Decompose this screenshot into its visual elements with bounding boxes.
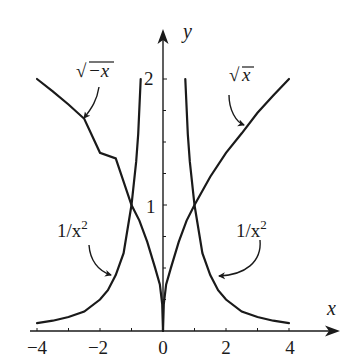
curve-inv-sq-left (37, 79, 141, 323)
label-inv-sq-left: 1/x2 (57, 217, 88, 241)
label-sqrt-neg-x: √ −x (76, 60, 114, 81)
x-tick-labels: −4 −2 0 2 4 (27, 337, 295, 358)
label-inv-sq-right: 1/x2 (236, 217, 267, 241)
x-tick-label: −4 (27, 337, 48, 358)
function-plot: −4 −2 0 2 4 2 1 x y √ −x √ x 1/x2 1/x2 (0, 0, 361, 358)
x-tick-label: 4 (285, 337, 295, 358)
svg-text:−x: −x (88, 60, 110, 81)
svg-text:1/x2: 1/x2 (236, 217, 267, 241)
y-axis-label: y (181, 20, 192, 43)
y-tick-label-1: 1 (146, 196, 156, 217)
svg-text:x: x (241, 64, 251, 85)
curve-sqrt-x (163, 79, 289, 331)
svg-text:1/x2: 1/x2 (57, 217, 88, 241)
label-sqrt-x: √ x (229, 64, 254, 85)
x-axis-label: x (326, 297, 336, 319)
svg-text:√: √ (76, 60, 87, 81)
arrow-to-inv-sq-left (89, 245, 111, 275)
svg-text:√: √ (229, 64, 240, 85)
arrow-to-sqrt-x (229, 95, 244, 125)
y-tick-label-2: 2 (144, 68, 154, 89)
curve-sqrt-neg-x (37, 79, 163, 331)
curve-inv-sq-right (185, 79, 289, 323)
arrow-to-sqrt-neg-x (84, 87, 99, 118)
x-tick-label: 2 (221, 337, 231, 358)
x-tick-label: 0 (158, 337, 168, 358)
x-tick-label: −2 (88, 337, 108, 358)
arrow-to-inv-sq-right (219, 240, 260, 276)
